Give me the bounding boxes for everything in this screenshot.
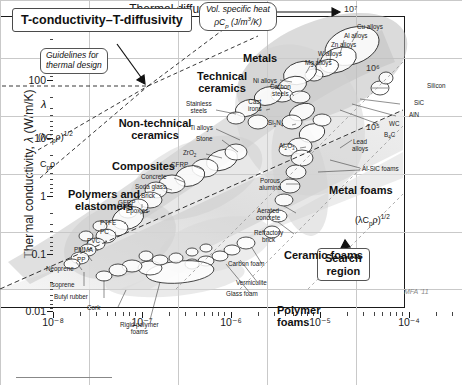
- member-label-carbon-steels: Carbonsteels: [270, 84, 291, 98]
- y-tick-label: 0.01: [0, 305, 46, 317]
- y-tick-label: 100: [0, 74, 46, 86]
- member-label-aln: AlN: [409, 112, 419, 119]
- member-label-pc: PC: [100, 229, 109, 236]
- footer-rule: [16, 377, 112, 378]
- guideline-label-heat-capacity: Cpρ: [40, 159, 55, 171]
- family-label-non-technical-ceramics: Non-technicalceramics: [111, 117, 199, 141]
- member-label-pp: PP: [77, 257, 85, 264]
- family-label-technical-ceramics: Technicalceramics: [191, 70, 253, 94]
- member-label-zn-alloys: Zn alloys: [331, 42, 356, 49]
- member-label-brick: Brick: [141, 193, 155, 200]
- x-tick-label: 10⁻⁶: [220, 316, 242, 328]
- member-label-pmma: PMMA: [74, 247, 93, 254]
- vol-heat-line1: Vol. specific heat: [206, 5, 270, 15]
- member-label-si3n4: Si3N4: [268, 120, 283, 128]
- guideline-label-lambda: λ: [41, 98, 46, 110]
- family-label-polymer-foams: Polymerfoams: [277, 304, 335, 328]
- member-label-cast-irons: Castirons: [248, 99, 262, 113]
- member-label-aerated-concrete: Aeratedconcrete: [256, 208, 280, 222]
- family-label-metals: Metals: [243, 52, 277, 64]
- member-label-porous-alumina: Porousalumina: [259, 178, 281, 192]
- member-label-w-alloys: W alloys: [318, 51, 342, 58]
- member-label-epoxies: Epoxies: [126, 208, 148, 215]
- member-label-gfrp: GFRP: [118, 200, 136, 207]
- member-label-concrete: Concrete: [141, 174, 167, 181]
- member-label-carbon-foam: Carbon foam: [228, 261, 264, 268]
- member-label-al-alloys: Al alloys: [344, 33, 367, 40]
- x-tick-label: 10⁻⁴: [398, 316, 420, 328]
- member-label-soda-glass: Soda glass: [135, 184, 166, 191]
- volumetric-specific-heat-box: Vol. specific heat ρCp (J/m3/K): [199, 2, 277, 31]
- member-label-isoprene: Isoprene: [50, 282, 75, 289]
- member-label-cu-alloys: Cu alloys: [357, 24, 383, 31]
- guideline-label-thermal-wave: (λCpρ)1/2: [38, 130, 73, 144]
- family-label-ceramic-foams: Ceramic foams: [284, 249, 363, 261]
- member-label-b4c: B4C: [384, 132, 395, 140]
- member-label-cfrp: CFRP: [171, 162, 188, 169]
- member-label-ti-alloys: Ti alloys: [190, 125, 213, 132]
- member-label-rigid-polymer-foams: Rigid polymerfoams: [120, 322, 159, 336]
- search-line2: region: [325, 265, 362, 278]
- member-label-stainless-steels: Stainlesssteels: [186, 101, 212, 115]
- member-label-mg-alloys: Mg alloys: [305, 60, 332, 67]
- member-label-wc: WC: [389, 121, 400, 128]
- member-label-cork: Cork: [87, 305, 100, 312]
- guidelines-callout-box: Guidelines for thermal design: [40, 48, 108, 74]
- y-tick-label: 1: [0, 190, 46, 202]
- member-label-stone: Stone: [196, 136, 212, 143]
- member-label-ptfe: PTFE: [100, 220, 116, 227]
- member-label-glass-foam: Glass foam: [226, 291, 258, 298]
- member-label-neoprene: Neoprene: [46, 266, 74, 273]
- member-label-butyl-rubber: Butyl rubber: [54, 294, 88, 301]
- member-label-zro2: ZrO2: [183, 150, 196, 158]
- member-label-pvc: PVC: [87, 238, 100, 245]
- member-label-silicon: Silicon: [427, 83, 446, 90]
- x-tick-label: 10⁻⁸: [42, 316, 64, 328]
- ashby-chart-thermal-conductivity-diffusivity: Thermal conductivity, λ (W/m/K) Thermal …: [0, 0, 462, 385]
- chart-title-box: T-conductivity–T-diffusivity: [12, 8, 192, 32]
- family-label-metal-foams: Metal foams: [329, 184, 393, 196]
- member-label-al-sic-foams: Al-SiC foams: [362, 166, 399, 173]
- member-label-al2o3: Al2O3: [279, 143, 295, 151]
- y-tick-label: 0.1: [0, 248, 46, 260]
- member-label-refractory-brick: Refractorybrick: [254, 230, 283, 244]
- member-label-sic: SiC: [414, 100, 424, 107]
- family-label-composites: Composites: [112, 160, 175, 172]
- member-label-vermiculite: Vermiculite: [236, 280, 267, 287]
- vol-heat-line2: ρCp (J/m3/K): [206, 15, 270, 29]
- guidelines-line2: thermal design: [46, 61, 102, 71]
- member-label-lead-alloys: Leadalloys: [352, 139, 368, 153]
